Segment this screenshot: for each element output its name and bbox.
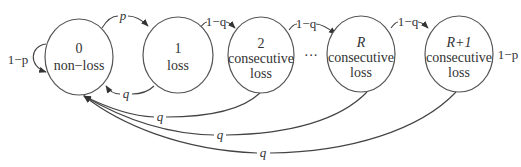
edge-label-p: p <box>119 8 127 23</box>
edge-label-q-R-to-0: q <box>217 127 224 142</box>
state-2-number: 2 <box>258 36 265 51</box>
state-R-consecutive-loss: R consecutive loss <box>327 16 395 92</box>
state-2-label: consecutive <box>228 51 294 66</box>
state-R1-label: consecutive <box>426 50 492 65</box>
edge-s0-to-s1: p <box>102 8 148 28</box>
edge-label-1-minus-p-right: 1−p <box>498 47 518 62</box>
edge-label-q-1-to-0: q <box>123 86 130 101</box>
edge-label-1-minus-q-2-to-R: 1−q <box>296 16 317 31</box>
edge-label-q-2-to-0: q <box>157 109 164 124</box>
state-0-label: non−loss <box>54 58 105 73</box>
state-1-number: 1 <box>175 41 182 56</box>
state-2-consecutive-loss: 2 consecutive loss <box>228 17 294 93</box>
markov-chain-diagram: 1−p p q 1−q 1−q 1−q 1−p q q q <box>0 0 521 167</box>
edge-label-1-minus-q-1-to-2: 1−q <box>206 14 227 29</box>
edge-label-1-minus-q-R-to-R1: 1−q <box>398 14 419 29</box>
state-R1-number: R+1 <box>446 35 472 50</box>
state-1-label: loss <box>167 58 189 73</box>
edge-s1-to-s0: q <box>106 86 154 101</box>
state-R-number: R <box>356 35 366 50</box>
edge-s2-to-s0: q <box>84 93 260 124</box>
edge-sR1-to-s0: q <box>84 92 456 160</box>
state-0-non-loss: 0 non−loss <box>45 19 113 95</box>
state-R1-label-line2: loss <box>448 65 470 80</box>
state-0-number: 0 <box>76 41 83 56</box>
edge-s1-to-s2: 1−q <box>200 14 235 29</box>
state-R1-consecutive-loss: R+1 consecutive loss <box>425 16 493 92</box>
state-2-label-line2: loss <box>250 66 272 81</box>
edge-sR-to-sR1: 1−q <box>391 14 428 29</box>
state-R-label: consecutive <box>328 50 394 65</box>
state-1-loss: 1 loss <box>143 17 213 93</box>
state-R-label-line2: loss <box>350 65 372 80</box>
edge-s2-to-sR: 1−q <box>289 16 336 34</box>
edge-sR1-self: 1−p <box>498 47 518 62</box>
edge-label-1-minus-p-left: 1−p <box>8 52 28 67</box>
edge-s0-self-loop: 1−p <box>8 44 46 72</box>
edge-label-q-R1-to-0: q <box>260 145 267 160</box>
ellipsis: ··· <box>304 48 318 63</box>
